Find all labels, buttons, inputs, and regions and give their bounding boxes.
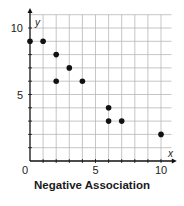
data-point [53,52,59,58]
data-point [40,39,46,45]
data-point [53,78,59,84]
y-tick-label: 10 [11,22,23,34]
data-point [106,105,112,111]
y-tick-label: 5 [17,89,23,101]
x-tick-label: 10 [155,164,167,176]
data-point [106,118,112,124]
chart-title: Negative Association [0,179,184,191]
origin-label: 0 [22,164,28,176]
y-axis-arrow-icon [28,8,33,13]
data-point [119,118,125,124]
data-point [27,39,33,45]
data-point [67,65,73,71]
x-tick-label: 5 [92,164,98,176]
data-point [158,132,164,138]
data-point [80,78,86,84]
x-axis-label: x [167,148,174,159]
y-axis-label: y [34,17,41,28]
scatter-plot: 0510510xy [0,0,184,206]
x-axis-arrow-icon [172,159,177,164]
